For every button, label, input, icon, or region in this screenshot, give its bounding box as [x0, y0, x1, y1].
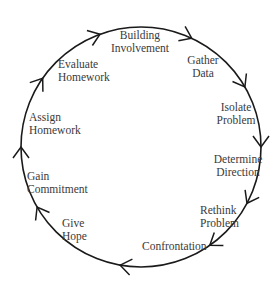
stage-label-evaluate-homework: EvaluateHomework [58, 58, 110, 83]
stage-label-line: Hope [62, 230, 87, 243]
stage-label-gather-data: GatherData [187, 54, 218, 79]
stage-label-line: Determine [214, 153, 263, 165]
arrowhead-icon [87, 31, 100, 46]
stage-label-line: Homework [29, 124, 81, 136]
stage-label-line: Direction [216, 166, 260, 178]
stage-label-line: Assign [29, 111, 61, 124]
stage-label-line: Homework [58, 71, 110, 83]
stage-label-line: Rethink [200, 204, 237, 216]
stage-label-line: Gather [187, 54, 218, 66]
stage-label-confrontation: Confrontation [142, 240, 207, 252]
stage-label-determine-direction: DetermineDirection [214, 153, 263, 178]
cycle-diagram: BuildingInvolvementGatherDataIsolateProb… [0, 0, 278, 298]
stage-label-line: Gain [27, 170, 50, 182]
stage-label-gain-commitment: GainCommitment [27, 170, 89, 195]
stage-label-give-hope: GiveHope [62, 217, 87, 243]
cycle-circle [21, 27, 261, 267]
stage-label-line: Involvement [111, 42, 170, 54]
stage-label-rethink-problem: RethinkProblem [200, 204, 239, 229]
stage-label-line: Data [192, 67, 214, 79]
stage-label-building-involvement: BuildingInvolvement [111, 29, 170, 54]
stage-label-line: Give [62, 217, 84, 229]
stage-label-line: Commitment [27, 183, 89, 195]
stage-label-assign-homework: AssignHomework [29, 111, 81, 136]
stage-label-line: Problem [217, 114, 256, 126]
stage-label-isolate-problem: IsolateProblem [217, 101, 256, 126]
stage-label-line: Building [120, 29, 161, 42]
stage-label-line: Evaluate [58, 58, 98, 70]
stage-label-line: Confrontation [142, 240, 207, 252]
stage-label-line: Isolate [221, 101, 252, 113]
stage-label-line: Problem [200, 217, 239, 229]
arrowheads [13, 26, 269, 275]
